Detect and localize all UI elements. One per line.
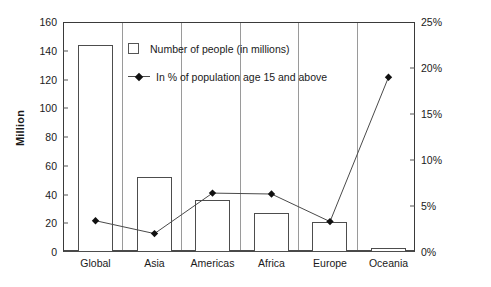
x-axis-label-americas: Americas (191, 257, 235, 269)
x-axis-label-asia: Asia (144, 257, 164, 269)
bar-africa (254, 213, 289, 252)
bar-americas (195, 200, 230, 252)
category-separator (122, 23, 123, 250)
y-tick-mark (63, 223, 68, 224)
y-tick-mark (63, 79, 68, 80)
y2-tick-mark (410, 114, 415, 115)
y-tick-mark (63, 194, 68, 195)
chart-legend: Number of people (in millions) In % of p… (128, 40, 327, 96)
y-tick-label: 100 (39, 102, 57, 114)
y-tick-mark (63, 50, 68, 51)
y2-tick-label: 15% (421, 108, 442, 120)
y2-tick-mark (410, 206, 415, 207)
legend-item-number-of-people: Number of people (in millions) (128, 40, 327, 57)
y-tick-label: 120 (39, 74, 57, 86)
legend-label: In % of population age 15 and above (156, 71, 327, 83)
bar-global (78, 45, 113, 252)
x-axis-label-oceania: Oceania (369, 257, 408, 269)
legend-item-percent-population: In % of population age 15 and above (128, 68, 327, 85)
x-axis-label-global: Global (80, 257, 110, 269)
x-axis-label-europe: Europe (313, 257, 347, 269)
y2-tick-label: 10% (421, 154, 442, 166)
x-axis-label-africa: Africa (258, 257, 285, 269)
y-tick-mark (63, 165, 68, 166)
y-tick-label: 60 (45, 160, 57, 172)
y2-tick-label: 20% (421, 62, 442, 74)
line-marker-icon (128, 71, 150, 82)
y-tick-mark (63, 137, 68, 138)
y2-tick-mark (410, 160, 415, 161)
category-separator (357, 23, 358, 250)
y2-tick-mark (410, 68, 415, 69)
chart-container: Million 160 140 120 100 80 60 40 20 0 25… (0, 0, 491, 287)
bar-asia (137, 177, 172, 252)
y2-tick-label: 5% (421, 200, 436, 212)
y-tick-label: 160 (39, 16, 57, 28)
y2-tick-label: 25% (421, 16, 442, 28)
y-tick-mark (63, 108, 68, 109)
y-axis-left-ticks: 160 140 120 100 80 60 40 20 0 (24, 0, 57, 287)
y-tick-label: 80 (45, 131, 57, 143)
y-tick-label: 0 (51, 246, 57, 258)
y-axis-right-ticks: 25% 20% 15% 10% 5% 0% (421, 0, 461, 287)
bar-oceania (371, 248, 406, 252)
y-tick-label: 20 (45, 217, 57, 229)
empty-square-icon (128, 43, 139, 54)
bar-europe (312, 222, 347, 252)
y2-tick-label: 0% (421, 246, 436, 258)
legend-label: Number of people (in millions) (150, 43, 289, 55)
y-tick-label: 140 (39, 45, 57, 57)
y-tick-label: 40 (45, 189, 57, 201)
